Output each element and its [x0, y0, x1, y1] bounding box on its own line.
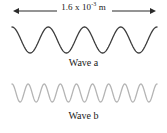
- wave-a-curve: [0, 22, 167, 58]
- wave-comparison-figure: 1.6 x 10-3 m Wave a Wave b: [0, 0, 167, 133]
- dimension-label: 1.6 x 10-3 m: [0, 2, 167, 13]
- wave-a-caption: Wave a: [0, 57, 167, 69]
- dimension-unit: m: [96, 2, 105, 12]
- dimension-value: 1.6 x 10: [61, 2, 91, 12]
- wave-b-caption: Wave b: [0, 110, 167, 122]
- wave-b-curve: [0, 79, 167, 107]
